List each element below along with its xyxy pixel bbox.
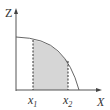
x-axis-label: X — [97, 96, 104, 108]
x-axis-arrow-icon — [96, 88, 102, 92]
diagram: Z X x1 x2 — [0, 0, 110, 110]
x2-label: x2 — [63, 94, 72, 110]
x1-label-sub: 1 — [33, 100, 37, 109]
shaded-region — [33, 40, 68, 90]
z-axis-label: Z — [5, 7, 12, 19]
z-axis-arrow-icon — [14, 8, 18, 14]
x2-label-sub: 2 — [68, 100, 72, 109]
plot-graphic — [0, 0, 110, 110]
x1-label: x1 — [28, 94, 37, 110]
